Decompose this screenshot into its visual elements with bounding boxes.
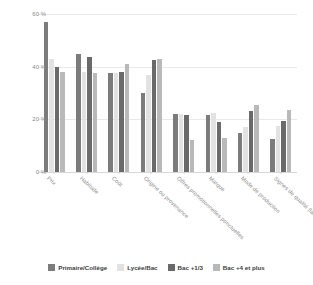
legend-swatch [168, 264, 175, 271]
bar [270, 139, 275, 172]
bar [157, 59, 162, 172]
bar [222, 138, 227, 172]
bar [184, 115, 189, 172]
x-axis-tick [54, 172, 55, 174]
bar [243, 127, 248, 172]
bar [249, 111, 254, 172]
legend-label: Primaire/Collège [58, 264, 107, 271]
x-axis-tick [216, 172, 217, 174]
bar [206, 115, 211, 172]
legend-item[interactable]: Lycée/Bac [117, 264, 157, 271]
bar [211, 113, 216, 172]
bar-group [265, 14, 297, 172]
x-axis-tick [86, 172, 87, 174]
bar [238, 133, 243, 173]
legend-swatch [48, 264, 55, 271]
legend-item[interactable]: Bac +4 et plus [213, 264, 265, 271]
bar [119, 72, 124, 172]
x-axis-tick [248, 172, 249, 174]
bar-group [70, 14, 102, 172]
x-axis-tick [151, 172, 152, 174]
x-axis-label: Prix [46, 175, 57, 186]
bar [276, 126, 281, 172]
x-axis-label: Coût [111, 175, 124, 188]
bar-group [38, 14, 70, 172]
bar-group [200, 14, 232, 172]
legend-item[interactable]: Bac +1/3 [168, 264, 203, 271]
bar [125, 64, 130, 172]
bar [141, 93, 146, 172]
legend-item[interactable]: Primaire/Collège [48, 264, 107, 271]
bar [146, 75, 151, 172]
bar [114, 73, 119, 172]
bar-group [103, 14, 135, 172]
chart-legend: Primaire/CollègeLycée/BacBac +1/3Bac +4 … [0, 264, 313, 271]
legend-swatch [213, 264, 220, 271]
x-axis-tick [183, 172, 184, 174]
bar [173, 114, 178, 172]
bar [254, 105, 259, 172]
x-axis-label: Marque [208, 175, 226, 193]
bar [93, 73, 98, 172]
bar [82, 72, 87, 172]
x-axis-label: Offres promotionnelles ponctuelles [176, 175, 246, 240]
bar [87, 57, 92, 172]
bar [287, 110, 292, 172]
bar-group [232, 14, 264, 172]
x-axis-tick [280, 172, 281, 174]
bar [217, 122, 222, 172]
legend-label: Lycée/Bac [127, 264, 157, 271]
x-axis-labels: PrixHabitudeCoûtOrigine ou provenanceOff… [38, 175, 297, 260]
y-axis-tick-label: 40 % [16, 64, 46, 70]
y-axis-tick-label: 60 % [16, 11, 46, 17]
plot-area [38, 14, 297, 173]
bar-groups [38, 14, 297, 172]
bar [55, 67, 60, 172]
bar [152, 60, 157, 172]
legend-label: Bac +4 et plus [223, 264, 265, 271]
bar [281, 121, 286, 172]
bar [76, 54, 81, 173]
bar [108, 73, 113, 172]
bar [179, 114, 184, 172]
x-axis-label: Habitude [78, 175, 99, 195]
legend-label: Bac +1/3 [178, 264, 203, 271]
bar [44, 22, 49, 172]
bar [190, 140, 195, 172]
bar [49, 59, 54, 172]
legend-swatch [117, 264, 124, 271]
y-axis-tick-label: 20 % [16, 116, 46, 122]
chart-title-cropped [0, 0, 313, 9]
bar [60, 72, 65, 172]
bar-chart: 0 %20 %40 %60 % PrixHabitudeCoûtOrigine … [0, 0, 313, 285]
bar-group [135, 14, 167, 172]
x-axis-line [38, 172, 297, 173]
bar-group [168, 14, 200, 172]
x-axis-tick [118, 172, 119, 174]
